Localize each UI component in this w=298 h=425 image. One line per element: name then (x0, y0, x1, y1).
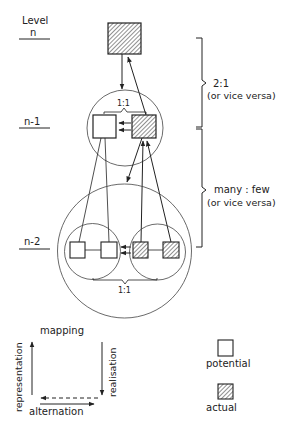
potential-legend-label: potential (206, 358, 250, 369)
level-n1-potential-square (93, 115, 116, 138)
level-title: Level (22, 15, 48, 26)
representation-arrow-n1-to-n (128, 57, 146, 115)
level-n1-label: n-1 (24, 116, 40, 127)
upper-bracket (196, 38, 206, 127)
square-legend: potential actual (206, 340, 250, 413)
representation-arrow-n2-to-n1-b (147, 141, 171, 242)
level-n2-actual-square-2 (163, 242, 179, 258)
upper-bracket-note: (or vice versa) (207, 90, 276, 101)
alternation-label: alternation (29, 406, 84, 417)
mapping-label: mapping (40, 325, 84, 336)
lower-bracket-ratio: many : few (214, 184, 270, 195)
level-n2-potential-square-1 (70, 242, 85, 258)
potential-legend-square (218, 340, 233, 356)
level-n1-brace (104, 108, 146, 114)
level-n2-label: n-2 (24, 236, 40, 247)
actual-legend-label: actual (206, 402, 237, 413)
level-n2-potential-square-2 (101, 242, 117, 258)
level-n1-ratio: 1:1 (117, 99, 130, 108)
level-n-actual-square (108, 23, 141, 54)
level-mapping-diagram: Level n n-1 n-2 1:1 1:1 2:1 (or vice ver… (0, 0, 298, 425)
level-n1-actual-square (132, 115, 156, 138)
realisation-arrow-n1-to-n2 (127, 138, 142, 182)
actual-legend-square (218, 384, 233, 399)
upper-bracket-ratio: 2:1 (213, 78, 229, 89)
representation-label: representation (13, 342, 24, 412)
level-n-label: n (30, 27, 36, 38)
representation-arrow-n2-to-n1-a (141, 141, 143, 242)
level-n2-ratio: 1:1 (118, 286, 131, 295)
level-n2-actual-square-1 (133, 242, 148, 258)
level-labels: Level n n-1 n-2 (19, 15, 50, 249)
lower-bracket (196, 129, 206, 247)
mapping-legend: mapping representation realisation alter… (13, 325, 118, 417)
lower-bracket-note: (or vice versa) (207, 197, 276, 208)
level-n2-brace (93, 278, 157, 284)
realisation-label: realisation (107, 347, 118, 397)
